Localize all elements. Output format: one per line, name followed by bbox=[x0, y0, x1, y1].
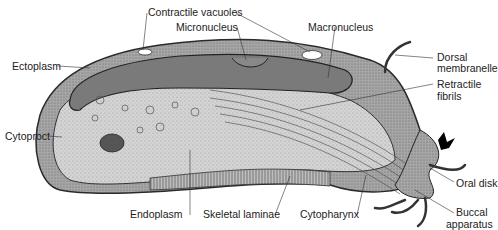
label-cytoproct: Cytoproct bbox=[5, 130, 50, 142]
label-retractile-fibrils-2: fibrils bbox=[437, 90, 462, 102]
label-cytopharynx: Cytopharynx bbox=[300, 208, 359, 220]
label-buccal-apparatus-2: apparatus bbox=[446, 218, 493, 230]
label-macronucleus: Macronucleus bbox=[308, 21, 373, 33]
label-buccal-apparatus-1: Buccal bbox=[456, 206, 488, 218]
contractile-vacuole bbox=[302, 51, 322, 60]
buccal-apparatus-black bbox=[438, 132, 455, 150]
label-ectoplasm: Ectoplasm bbox=[12, 60, 61, 72]
label-retractile-fibrils-1: Retractile bbox=[437, 78, 481, 90]
cytoproct-mass bbox=[100, 134, 124, 152]
label-endoplasm: Endoplasm bbox=[130, 208, 183, 220]
label-skeletal-laminae: Skeletal laminae bbox=[203, 208, 280, 220]
contractile-vacuole bbox=[138, 49, 152, 55]
label-contractile-vacuoles: Contractile vacuoles bbox=[148, 6, 243, 18]
label-micronucleus: Micronucleus bbox=[176, 21, 238, 33]
label-oral-disk: Oral disk bbox=[456, 177, 497, 189]
label-dorsal-membranelle-2: membranelle bbox=[437, 62, 498, 74]
